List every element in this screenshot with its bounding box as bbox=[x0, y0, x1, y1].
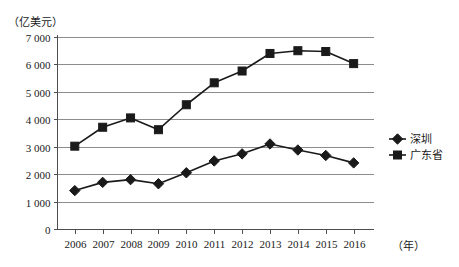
chart-page: （亿美元） 01 0002 0003 0004 0005 0006 0007 0… bbox=[0, 0, 459, 267]
x-tick-label-2008: 2008 bbox=[121, 238, 144, 250]
legend-marker-diamond-icon bbox=[392, 134, 402, 144]
x-tick-label-2016: 2016 bbox=[344, 238, 367, 250]
data-point-广东省-2012 bbox=[238, 67, 246, 75]
data-point-广东省-2008 bbox=[127, 114, 135, 122]
data-point-广东省-2010 bbox=[182, 101, 190, 109]
legend-item-深圳[interactable]: 深圳 bbox=[389, 133, 432, 145]
x-tick-label-2009: 2009 bbox=[148, 238, 171, 250]
y-tick-label-2000: 2 000 bbox=[26, 169, 51, 181]
y-axis-unit-label: （亿美元） bbox=[8, 16, 63, 28]
data-point-深圳-2015 bbox=[321, 150, 331, 160]
data-point-深圳-2014 bbox=[293, 145, 303, 155]
y-tick-label-5000: 5 000 bbox=[26, 87, 51, 99]
x-axis-tick-labels: 2006200720082009201020112012201320142015… bbox=[65, 238, 367, 250]
data-point-深圳-2007 bbox=[97, 177, 107, 187]
data-point-广东省-2009 bbox=[154, 126, 162, 134]
x-tick-label-2015: 2015 bbox=[316, 238, 339, 250]
y-axis-tick-labels: 01 0002 0003 0004 0005 0006 0007 000 bbox=[26, 32, 51, 236]
legend-marker-square-icon bbox=[394, 151, 402, 159]
data-point-深圳-2010 bbox=[181, 168, 191, 178]
chart-legend: 深圳广东省 bbox=[389, 133, 443, 161]
legend-label-广东省: 广东省 bbox=[410, 149, 443, 161]
x-tick-label-2011: 2011 bbox=[204, 238, 226, 250]
series-line-广东省 bbox=[75, 51, 354, 146]
y-tick-label-1000: 1 000 bbox=[26, 197, 51, 209]
data-point-广东省-2007 bbox=[99, 123, 107, 131]
data-point-广东省-2006 bbox=[71, 142, 79, 150]
data-point-深圳-2009 bbox=[153, 179, 163, 189]
y-tick-label-3000: 3 000 bbox=[26, 142, 51, 154]
data-point-广东省-2014 bbox=[294, 47, 302, 55]
y-tick-label-7000: 7 000 bbox=[26, 32, 51, 44]
x-tick-label-2014: 2014 bbox=[288, 238, 311, 250]
legend-label-深圳: 深圳 bbox=[410, 133, 432, 145]
legend-item-广东省[interactable]: 广东省 bbox=[389, 149, 443, 161]
data-point-深圳-2006 bbox=[70, 185, 80, 195]
data-point-深圳-2011 bbox=[209, 156, 219, 166]
line-chart: （亿美元） 01 0002 0003 0004 0005 0006 0007 0… bbox=[0, 0, 459, 267]
x-axis-unit-label: （年） bbox=[392, 239, 425, 252]
data-point-广东省-2016 bbox=[350, 60, 358, 68]
data-point-广东省-2011 bbox=[210, 79, 218, 87]
x-tick-label-2012: 2012 bbox=[232, 238, 254, 250]
x-tick-label-2013: 2013 bbox=[260, 238, 283, 250]
gridlines bbox=[58, 38, 375, 203]
y-tick-label-4000: 4 000 bbox=[26, 114, 51, 126]
series-广东省 bbox=[71, 47, 358, 150]
series-line-深圳 bbox=[75, 144, 354, 191]
data-point-深圳-2008 bbox=[125, 174, 135, 184]
x-tick-label-2007: 2007 bbox=[93, 238, 116, 250]
data-point-广东省-2013 bbox=[266, 49, 274, 57]
data-point-深圳-2012 bbox=[237, 149, 247, 159]
data-point-广东省-2015 bbox=[322, 48, 330, 56]
data-series bbox=[70, 47, 359, 196]
x-tick-label-2010: 2010 bbox=[176, 238, 199, 250]
data-point-深圳-2016 bbox=[348, 158, 358, 168]
y-tick-label-0: 0 bbox=[45, 224, 51, 236]
x-tick-label-2006: 2006 bbox=[65, 238, 88, 250]
y-tick-label-6000: 6 000 bbox=[26, 59, 51, 71]
